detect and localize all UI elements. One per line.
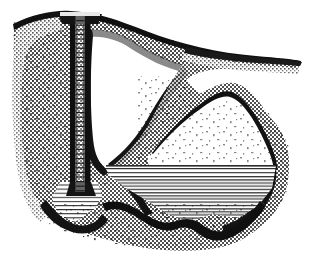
shaft-mouth-lip (60, 12, 100, 16)
waterline (106, 165, 276, 167)
shaft-left-wall (70, 18, 76, 190)
ladder (76, 16, 85, 192)
engraving-figure: Cave Cross-Section Vertical section thro… (0, 0, 318, 261)
shaft-right-wall (85, 18, 91, 184)
cave-cross-section-illustration (0, 0, 318, 261)
